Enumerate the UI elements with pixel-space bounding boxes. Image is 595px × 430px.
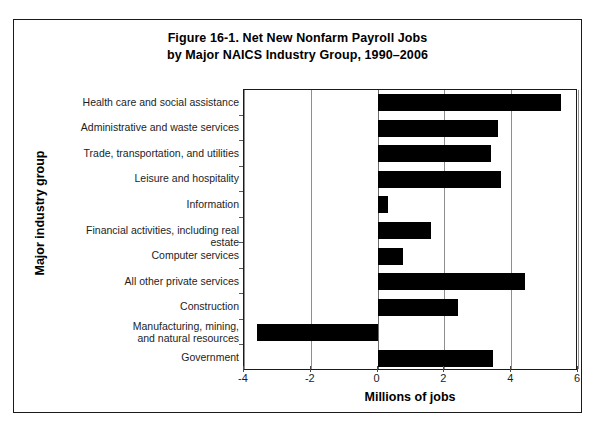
bar-row	[244, 273, 576, 290]
category-label: Information	[64, 198, 239, 210]
bar	[257, 324, 377, 341]
bar-row	[244, 222, 576, 239]
plot-area	[243, 89, 577, 370]
category-label: Government	[64, 351, 239, 363]
category-label: Leisure and hospitality	[64, 172, 239, 184]
gridline-6	[578, 90, 579, 369]
category-label: Construction	[64, 300, 239, 312]
bar	[378, 299, 458, 316]
x-axis-tick-label: 6	[562, 372, 592, 384]
bar-row	[244, 248, 576, 265]
bar	[378, 196, 388, 213]
chart-title: Figure 16-1. Net New Nonfarm Payroll Job…	[14, 30, 581, 64]
bar-row	[244, 196, 576, 213]
bar-row	[244, 145, 576, 162]
category-label: Financial activities, including real est…	[64, 224, 239, 248]
figure-border: Figure 16-1. Net New Nonfarm Payroll Job…	[13, 19, 582, 413]
bar	[378, 248, 403, 265]
x-axis-title: Millions of jobs	[243, 390, 577, 404]
category-label: Administrative and waste services	[64, 121, 239, 133]
x-axis-tick-label: 2	[428, 372, 458, 384]
chart-title-line-2: by Major NAICS Industry Group, 1990–2006	[14, 47, 581, 64]
bar-row	[244, 120, 576, 137]
x-axis-tick-label: -2	[295, 372, 325, 384]
x-axis-tick-label: -4	[228, 372, 258, 384]
x-axis-tick-labels: -4-20246	[243, 372, 577, 388]
bars-layer	[244, 90, 576, 369]
bar	[378, 171, 502, 188]
bar	[378, 350, 493, 367]
bar-row	[244, 324, 576, 341]
chart-title-line-1: Figure 16-1. Net New Nonfarm Payroll Job…	[14, 30, 581, 47]
x-axis-tick-label: 0	[362, 372, 392, 384]
category-label: Health care and social assistance	[64, 96, 239, 108]
category-label: Computer services	[64, 249, 239, 261]
category-label: All other private services	[64, 275, 239, 287]
bar	[378, 222, 431, 239]
bar	[378, 145, 492, 162]
category-label-group: Health care and social assistanceAdminis…	[64, 89, 239, 370]
bar-row	[244, 350, 576, 367]
bar-row	[244, 171, 576, 188]
bar-row	[244, 299, 576, 316]
x-axis-tick-label: 4	[495, 372, 525, 384]
bar	[378, 94, 562, 111]
category-label: Trade, transportation, and utilities	[64, 147, 239, 159]
bar-row	[244, 94, 576, 111]
category-label: Manufacturing, mining, and natural resou…	[64, 320, 239, 344]
bar	[378, 120, 498, 137]
y-axis-title: Major industry group	[33, 113, 47, 313]
bar	[378, 273, 525, 290]
